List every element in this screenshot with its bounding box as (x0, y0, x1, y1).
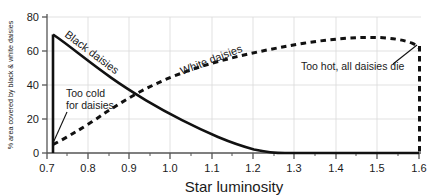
annotation-too-cold-line1: Too cold (66, 87, 105, 99)
x-tick-label-1.5: 1.5 (369, 162, 384, 174)
annotation-too-cold-line2: for daisies (66, 99, 114, 111)
x-tick-label-1.6: 1.6 (411, 162, 426, 174)
daisyworld-chart: 80 60 40 20 0 0.7 0.8 0.9 1.0 1.1 1.2 1.… (0, 0, 445, 196)
x-axis-title: Star luminosity (185, 178, 284, 195)
y-tick-label-40: 40 (27, 79, 39, 91)
y-tick-label-20: 20 (27, 113, 39, 125)
x-tick-label-0.9: 0.9 (121, 162, 136, 174)
annotation-too-hot: Too hot, all daisies die (301, 45, 417, 72)
series-label-white-daisies: White daisies (178, 42, 244, 77)
y-axis-title: % area covered by black & white daisies (6, 20, 15, 149)
series-label-black-daisies: Black daisies (63, 28, 122, 77)
y-tick-label-60: 60 (27, 45, 39, 57)
x-tick-label-1.1: 1.1 (204, 162, 219, 174)
x-tick-label-0.7: 0.7 (39, 162, 54, 174)
y-tick-labels: 80 60 40 20 0 (27, 11, 39, 159)
y-tick-label-80: 80 (27, 11, 39, 23)
annotation-too-hot-line1: Too hot, all daisies die (301, 60, 404, 72)
x-tick-label-1.3: 1.3 (286, 162, 301, 174)
x-tick-label-1.0: 1.0 (162, 162, 177, 174)
annotation-too-hot-leader (393, 45, 417, 64)
annotation-too-cold: Too cold for daisies (54, 87, 114, 142)
y-axis-ticks (42, 17, 47, 153)
x-tick-label-0.8: 0.8 (80, 162, 95, 174)
y-tick-label-0: 0 (33, 147, 39, 159)
chart-svg: 80 60 40 20 0 0.7 0.8 0.9 1.0 1.1 1.2 1.… (0, 0, 445, 196)
x-tick-labels: 0.7 0.8 0.9 1.0 1.1 1.2 1.3 1.4 1.5 1.6 (39, 162, 426, 174)
x-tick-label-1.2: 1.2 (245, 162, 260, 174)
x-tick-label-1.4: 1.4 (328, 162, 343, 174)
